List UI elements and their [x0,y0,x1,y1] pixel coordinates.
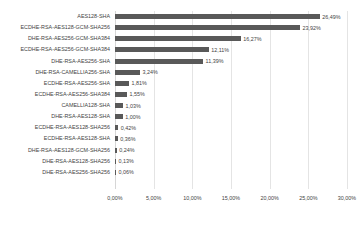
bar-value-label: 0,13% [119,158,134,164]
bar[interactable] [115,136,118,141]
bar-rows: 26,49%23,92%16,27%12,11%11,39%3,24%1,81%… [115,11,347,189]
x-tick-label: 0,00% [107,195,122,201]
bar[interactable] [115,114,123,119]
bar-row[interactable]: 3,24% [115,67,347,78]
bar-value-label: 12,11% [211,47,229,53]
x-tick-label: 10,00% [183,195,201,201]
category-label: ECDHE-RSA-AES128-GCM-SHA256 [20,22,110,33]
bar-row[interactable]: 0,24% [115,145,347,156]
bar[interactable] [115,81,129,86]
bar-value-label: 23,92% [302,25,320,31]
category-axis-labels: AES128-SHAECDHE-RSA-AES128-GCM-SHA256DHE… [0,11,113,189]
bar[interactable] [115,70,140,75]
category-label: DHE-RSA-AES256-GCM-SHA384 [28,33,110,44]
plot-area: 26,49%23,92%16,27%12,11%11,39%3,24%1,81%… [115,11,347,189]
bar-value-label: 26,49% [322,14,340,20]
bar-value-label: 0,24% [119,147,134,153]
bar-value-label: 0,42% [121,125,136,131]
bar-value-label: 16,27% [243,36,261,42]
category-label: ECDHE-RSA-AES256-SHA384 [35,89,110,100]
bar-row[interactable]: 26,49% [115,11,347,22]
bar-row[interactable]: 1,03% [115,100,347,111]
bar-value-label: 1,81% [131,80,146,86]
bar[interactable] [115,59,203,64]
bar-value-label: 3,24% [143,69,158,75]
bar-row[interactable]: 12,11% [115,44,347,55]
x-tick-label: 20,00% [261,195,279,201]
bar-row[interactable]: 1,81% [115,78,347,89]
x-tick-label: 5,00% [146,195,161,201]
bar-row[interactable]: 0,36% [115,133,347,144]
category-label: DHE-RSA-AES128-GCM-SHA256 [28,145,110,156]
bar-value-label: 1,55% [129,91,144,97]
bar-chart: AES128-SHAECDHE-RSA-AES128-GCM-SHA256DHE… [0,0,359,225]
bar-row[interactable]: 16,27% [115,33,347,44]
bar-value-label: 1,03% [125,103,140,109]
value-axis-labels: 0,00%5,00%10,00%15,00%20,00%25,00%30,00% [115,191,347,205]
bar[interactable] [115,14,320,19]
bar-row[interactable]: 23,92% [115,22,347,33]
bar[interactable] [115,125,118,130]
bar-row[interactable]: 11,39% [115,56,347,67]
bar-row[interactable]: 0,13% [115,156,347,167]
category-label: AES128-SHA [77,11,110,22]
bar-value-label: 11,39% [206,58,224,64]
bar-row[interactable]: 0,42% [115,122,347,133]
bar-row[interactable]: 1,00% [115,111,347,122]
bar-row[interactable]: 1,55% [115,89,347,100]
bar[interactable] [115,92,127,97]
bar-row[interactable]: 0,06% [115,167,347,178]
bar[interactable] [115,103,123,108]
bar[interactable] [115,36,241,41]
category-label: DHE-RSA-AES256-SHA [51,56,110,67]
category-label: CAMELLIA128-SHA [61,100,110,111]
gridline-30 [347,11,348,189]
bar[interactable] [115,148,117,153]
category-label: ECDHE-RSA-AES256-SHA [44,78,110,89]
bar[interactable] [115,159,116,164]
bar-value-label: 0,06% [119,169,134,175]
bar[interactable] [115,47,209,52]
category-label: DHE-RSA-AES128-SHA256 [42,156,110,167]
category-label: DHE-RSA-CAMELLIA256-SHA [35,67,110,78]
category-label: DHE-RSA-AES128-SHA [51,111,110,122]
bar[interactable] [115,25,300,30]
category-label: DHE-RSA-AES256-SHA256 [42,167,110,178]
bar-value-label: 0,36% [120,136,135,142]
bar-value-label: 1,00% [125,114,140,120]
x-tick-label: 30,00% [338,195,356,201]
category-label: ECDHE-RSA-AES128-SHA256 [35,122,110,133]
x-tick-label: 15,00% [222,195,240,201]
x-tick-label: 25,00% [299,195,317,201]
category-label: ECDHE-RSA-AES128-SHA [44,133,110,144]
category-label: ECDHE-RSA-AES256-GCM-SHA384 [20,44,110,55]
bar[interactable] [115,170,116,175]
